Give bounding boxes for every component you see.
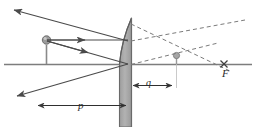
label-focal-point-F: F — [222, 68, 229, 79]
refracted-ray-upper — [14, 10, 128, 41]
plano-convex-lens — [120, 18, 132, 127]
virtual-ray-upper-extension — [131, 20, 245, 41]
refracted-ray-lower — [17, 64, 128, 96]
label-object-distance-p: p — [78, 100, 84, 111]
ray-diagram-figure: p q F — [0, 0, 258, 127]
diagram-canvas — [0, 0, 258, 127]
dimension-q — [133, 64, 177, 88]
label-image-distance-q: q — [146, 78, 151, 88]
virtual-ray-through-image — [131, 43, 218, 65]
chief-incident-ray-arrowhead — [47, 41, 88, 53]
